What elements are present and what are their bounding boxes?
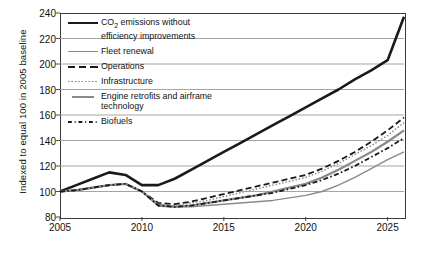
legend-label-infra: Infrastructure bbox=[101, 75, 153, 87]
legend-label-subscript: 2 bbox=[114, 22, 118, 29]
legend-label-fleet: Fleet renewal bbox=[101, 45, 154, 57]
chart-legend: CO2 emissions without efficiency improve… bbox=[68, 16, 268, 130]
legend-swatch-co2 bbox=[68, 16, 98, 28]
x-tick-label: 2025 bbox=[366, 222, 410, 233]
series-line bbox=[60, 130, 404, 207]
x-tick-label: 2010 bbox=[120, 222, 164, 233]
legend-item-bio: Biofuels bbox=[68, 115, 268, 127]
x-tick-label: 2020 bbox=[284, 222, 328, 233]
legend-swatch-fleet bbox=[68, 45, 98, 57]
legend-item-engine: Engine retrofits and airframe technology bbox=[68, 90, 268, 112]
series-line bbox=[60, 123, 404, 206]
legend-label-co2: CO2 emissions without efficiency improve… bbox=[101, 16, 195, 42]
legend-item-fleet: Fleet renewal bbox=[68, 45, 268, 57]
y-tick-label: 100 bbox=[26, 186, 56, 197]
legend-label-engine: Engine retrofits and airframe technology bbox=[101, 90, 212, 112]
y-tick-label: 200 bbox=[26, 59, 56, 70]
y-axis-tick-labels: 24022020018016014012010080 bbox=[25, 0, 56, 256]
y-tick-label: 220 bbox=[26, 33, 56, 44]
legend-label-ops: Operations bbox=[101, 60, 144, 72]
legend-swatch-ops bbox=[68, 60, 98, 72]
legend-swatch-bio bbox=[68, 115, 98, 127]
legend-swatch-engine bbox=[68, 90, 98, 102]
y-tick-label: 240 bbox=[26, 8, 56, 19]
legend-swatch-infra bbox=[68, 75, 98, 87]
legend-label-bio: Biofuels bbox=[101, 115, 132, 127]
y-tick-label: 140 bbox=[26, 135, 56, 146]
y-tick-label: 160 bbox=[26, 110, 56, 121]
legend-item-co2: CO2 emissions without efficiency improve… bbox=[68, 16, 268, 42]
y-tick-label: 120 bbox=[26, 161, 56, 172]
x-tick-label: 2015 bbox=[202, 222, 246, 233]
y-tick-label: 80 bbox=[26, 212, 56, 223]
chart-container: Indexed to equal 100 in 2005 baseline 24… bbox=[0, 0, 431, 256]
x-tick-label: 2005 bbox=[38, 222, 82, 233]
y-tick-label: 180 bbox=[26, 84, 56, 95]
legend-item-ops: Operations bbox=[68, 60, 268, 72]
legend-item-infra: Infrastructure bbox=[68, 75, 268, 87]
